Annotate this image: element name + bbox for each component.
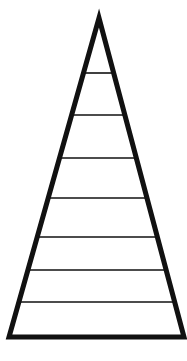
pyramid-level-dividers — [19, 73, 175, 302]
pyramid-diagram — [0, 0, 187, 361]
pyramid-outline — [9, 18, 184, 337]
